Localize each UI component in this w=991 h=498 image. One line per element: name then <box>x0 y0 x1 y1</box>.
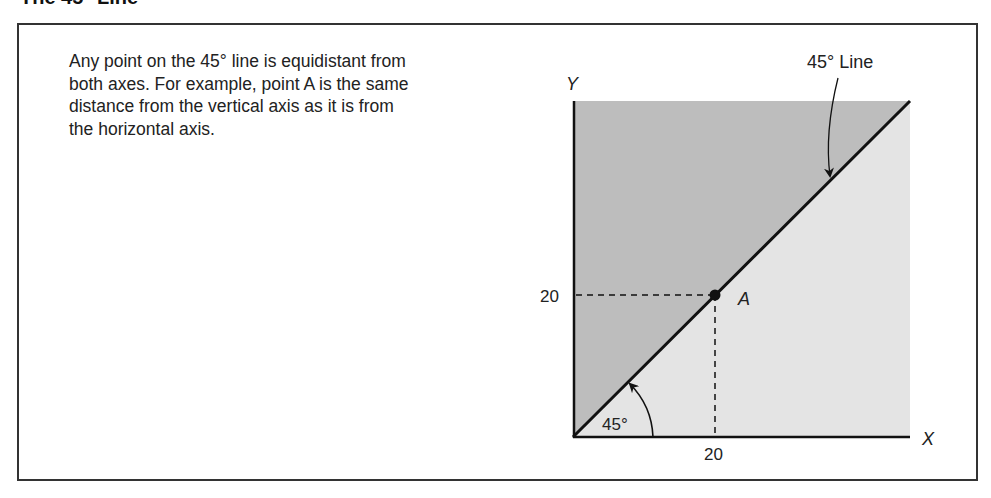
line-label: 45° Line <box>807 52 873 72</box>
forty-five-degree-diagram: Y X 45° Line 45° A 20 20 <box>0 0 991 498</box>
point-a-marker <box>710 290 721 301</box>
angle-label: 45° <box>602 415 628 434</box>
y-tick-label: 20 <box>540 287 559 306</box>
x-tick-label: 20 <box>704 445 723 464</box>
x-axis-label: X <box>921 429 935 449</box>
point-a-label: A <box>737 289 750 309</box>
y-axis-label: Y <box>566 74 580 94</box>
